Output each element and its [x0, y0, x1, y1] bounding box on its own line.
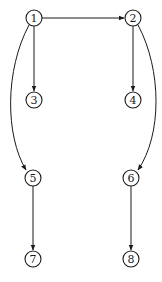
node-6-label: 6	[128, 172, 135, 185]
node-6: 6	[123, 170, 139, 186]
node-1: 1	[26, 10, 42, 26]
node-4: 4	[125, 92, 141, 108]
node-8-label: 8	[128, 253, 135, 266]
node-2: 2	[125, 10, 141, 26]
node-8: 8	[123, 251, 139, 267]
node-2-label: 2	[130, 12, 137, 25]
node-5: 5	[25, 170, 41, 186]
node-4-label: 4	[130, 94, 137, 107]
node-7: 7	[25, 251, 41, 267]
node-5-label: 5	[30, 172, 37, 185]
node-3-label: 3	[31, 94, 38, 107]
node-1-label: 1	[31, 12, 38, 25]
node-7-label: 7	[30, 253, 37, 266]
node-3: 3	[26, 92, 42, 108]
graph-canvas: 1 2 3 4 5 6 7 8	[0, 0, 162, 282]
